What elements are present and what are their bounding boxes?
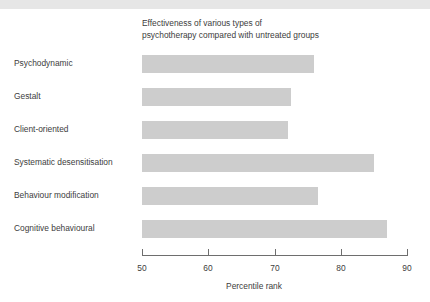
bar-psychodynamic bbox=[142, 55, 314, 73]
top-banner-strip bbox=[0, 0, 430, 9]
x-tick-60 bbox=[208, 249, 209, 256]
bar-gestalt bbox=[142, 88, 291, 106]
category-label-behaviour-modification: Behaviour modification bbox=[14, 190, 99, 200]
category-label-psychodynamic: Psychodynamic bbox=[14, 58, 73, 68]
x-tick-90 bbox=[407, 249, 408, 256]
x-tick-70 bbox=[275, 249, 276, 256]
category-label-cognitive-behavioural: Cognitive behavioural bbox=[14, 223, 95, 233]
x-axis-title-text: Percentile rank bbox=[226, 281, 282, 291]
bar-client-oriented bbox=[142, 121, 288, 139]
category-label-gestalt: Gestalt bbox=[14, 91, 41, 101]
x-tick-label-70: 70 bbox=[270, 263, 279, 273]
bar-behaviour-modification bbox=[142, 187, 318, 205]
x-axis-title: Percentile rank bbox=[0, 281, 430, 291]
bar-cognitive-behavioural bbox=[142, 220, 387, 238]
category-label-client-oriented: Client-oriented bbox=[14, 124, 68, 134]
x-tick-80 bbox=[341, 249, 342, 256]
plot-area: PsychodynamicGestaltClient-orientedSyste… bbox=[0, 9, 430, 302]
category-label-systematic-desensitisation: Systematic desensitisation bbox=[14, 157, 113, 167]
bar-systematic-desensitisation bbox=[142, 154, 374, 172]
x-tick-label-50: 50 bbox=[137, 263, 146, 273]
x-tick-label-80: 80 bbox=[336, 263, 345, 273]
x-tick-label-60: 60 bbox=[203, 263, 212, 273]
chart-figure: Effectiveness of various types of psycho… bbox=[0, 9, 430, 302]
x-tick-label-90: 90 bbox=[402, 263, 411, 273]
x-tick-50 bbox=[142, 249, 143, 256]
